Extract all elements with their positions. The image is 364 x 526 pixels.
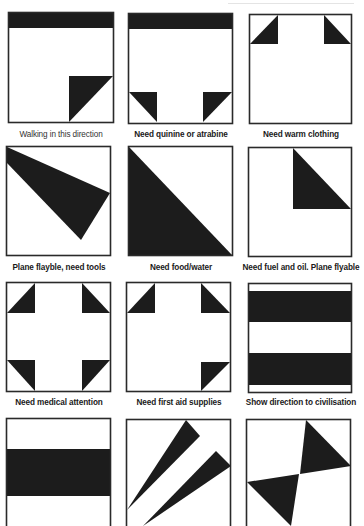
signal-shape (82, 283, 110, 313)
signal-panel-p12 (247, 420, 352, 526)
signal-panel-p5 (129, 147, 233, 256)
signal-panel-p6 (249, 148, 352, 257)
signal-panel-p4 (7, 147, 111, 256)
signal-shape (324, 15, 351, 44)
signal-shape (247, 474, 299, 526)
signal-shape (127, 283, 155, 313)
signal-shape (7, 449, 110, 496)
signal-panel-p11 (127, 420, 232, 526)
signal-shape (249, 353, 351, 385)
label-walking-direction: Walking in this direction (0, 130, 126, 139)
signal-panel-p3 (250, 15, 352, 124)
label-need-quinine: Need quinine or atrabine (116, 130, 246, 139)
signal-shape (129, 147, 232, 255)
signal-shape (203, 92, 232, 122)
signal-panel-p7 (7, 283, 111, 392)
signal-shape (300, 420, 351, 474)
signal-panel-p1 (8, 12, 114, 123)
signal-panel-p9 (249, 284, 352, 393)
signal-shape (127, 420, 200, 510)
signal-panel-p8 (127, 283, 231, 392)
signal-shape (7, 147, 110, 240)
label-show-direction-civilisation: Show direction to civilisation (236, 398, 364, 407)
label-need-first-aid: Need first aid supplies (114, 398, 244, 407)
signal-box-border (247, 420, 351, 526)
signal-shape (293, 148, 351, 209)
signal-shape (82, 360, 110, 391)
signal-shape (7, 283, 35, 313)
signal-shape (143, 451, 231, 526)
signal-box-border (9, 13, 114, 123)
label-need-warm-clothing: Need warm clothing (236, 130, 364, 139)
signal-shape (69, 76, 113, 122)
signal-shape (249, 291, 351, 322)
signal-shape (128, 13, 233, 29)
label-need-fuel-oil: Need fuel and oil. Plane flyable (236, 263, 364, 272)
signal-shape (8, 12, 114, 28)
label-need-medical-attention: Need medical attention (0, 398, 124, 407)
signal-panel-p10 (7, 419, 111, 526)
signal-shape (201, 283, 230, 313)
signal-shape (7, 360, 35, 391)
signal-panel-p2 (128, 13, 233, 124)
signal-shape (129, 92, 157, 122)
label-need-food-water: Need food/water (116, 263, 246, 272)
label-plane-flyable-need-tools: Plane flayble, need tools (0, 263, 124, 272)
signal-shape (250, 15, 278, 44)
signal-shape (201, 362, 230, 391)
